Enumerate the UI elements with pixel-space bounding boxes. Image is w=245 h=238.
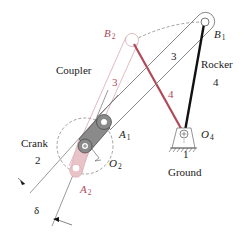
point-o4-label: O4 xyxy=(201,128,214,142)
linkage-diagram: Coupler Rocker 4 Crank 2 1 Ground 3 3 4 … xyxy=(0,0,245,238)
delta-label: δ xyxy=(34,204,39,216)
rocker-swing-arc xyxy=(134,22,203,40)
arrow-icon xyxy=(20,180,25,185)
crank-number: 2 xyxy=(35,154,41,166)
ground-pivot-o2 xyxy=(92,149,101,161)
coupler-link-position-1 xyxy=(97,12,215,130)
rocker-number: 4 xyxy=(213,76,219,88)
rocker-label: Rocker xyxy=(201,58,233,70)
crank-label: Crank xyxy=(21,137,48,149)
point-a2-label: A2 xyxy=(79,183,92,197)
link3-label-pos2: 3 xyxy=(112,76,118,88)
coupler-label: Coupler xyxy=(56,64,92,76)
point-o2-label: O2 xyxy=(109,157,122,171)
delta-dimension xyxy=(18,178,72,225)
ground-label: Ground xyxy=(168,166,202,178)
point-b2-label: B2 xyxy=(104,27,116,41)
point-b1-label: B1 xyxy=(214,28,226,42)
point-a1-label: A1 xyxy=(118,128,131,142)
ground-number: 1 xyxy=(183,148,189,160)
link3-label-pos1: 3 xyxy=(171,50,177,62)
joint-b1 xyxy=(201,18,209,26)
rocker-link-position-1 xyxy=(185,24,204,131)
link4-label-pos2: 4 xyxy=(168,88,174,100)
